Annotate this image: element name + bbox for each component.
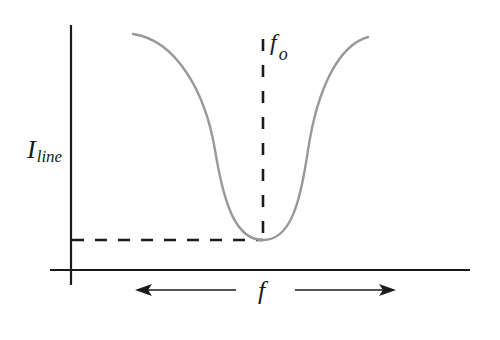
line-profile-curve bbox=[133, 34, 368, 240]
line-center-label-sub: o bbox=[279, 44, 288, 64]
x-axis-label: f bbox=[258, 276, 269, 305]
absorption-line-diagram: f fo Iline bbox=[0, 0, 500, 340]
y-axis-label: Iline bbox=[26, 135, 63, 166]
left-arrow-icon bbox=[135, 284, 236, 296]
right-arrow-icon bbox=[295, 284, 396, 296]
y-axis-label-sub: line bbox=[37, 147, 63, 166]
y-axis-label-main: I bbox=[26, 135, 37, 164]
line-center-label: fo bbox=[270, 29, 288, 64]
